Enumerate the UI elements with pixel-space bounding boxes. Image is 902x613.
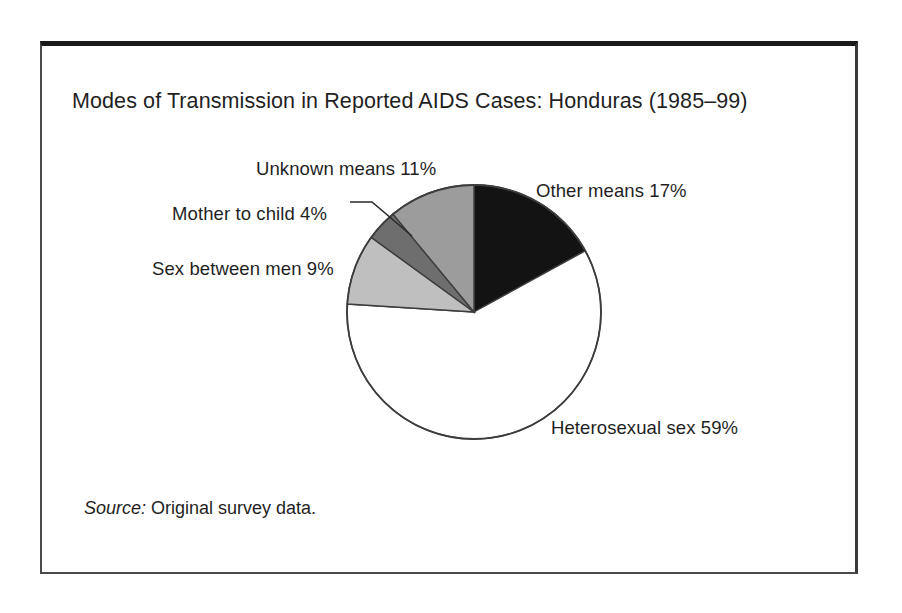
source-note-label: Source:: [84, 498, 146, 518]
pie-label-unknown-means: Unknown means 11%: [256, 158, 436, 180]
page-title: Modes of Transmission in Reported AIDS C…: [72, 89, 748, 114]
leader-line-mother-to-child: [350, 196, 420, 242]
pie-label-sex-between-men: Sex between men 9%: [152, 258, 334, 280]
pie-label-mother-to-child: Mother to child 4%: [172, 203, 327, 225]
source-note: Source: Original survey data.: [84, 498, 316, 519]
figure-root: Modes of Transmission in Reported AIDS C…: [0, 0, 902, 613]
pie-label-other-means: Other means 17%: [536, 180, 687, 202]
pie-label-heterosexual-sex: Heterosexual sex 59%: [551, 417, 738, 439]
source-note-text: Original survey data.: [146, 498, 316, 518]
